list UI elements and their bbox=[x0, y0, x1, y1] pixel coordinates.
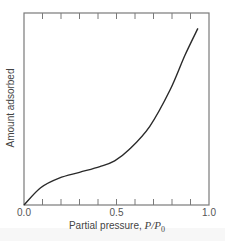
x-axis-label-text: Partial pressure, bbox=[69, 220, 145, 231]
y-axis-label: Amount adsorbed bbox=[5, 69, 16, 148]
x-axis-label: Partial pressure, P/P0 bbox=[69, 219, 165, 234]
chart-plot-area bbox=[0, 0, 225, 241]
x-tick-label: 1.0 bbox=[202, 207, 216, 218]
x-axis-label-var: P/P0 bbox=[145, 219, 166, 231]
x-tick-label: 0.0 bbox=[17, 207, 31, 218]
x-tick-label: 0.5 bbox=[110, 207, 124, 218]
plot-frame bbox=[24, 13, 209, 205]
isotherm-curve bbox=[24, 28, 198, 205]
